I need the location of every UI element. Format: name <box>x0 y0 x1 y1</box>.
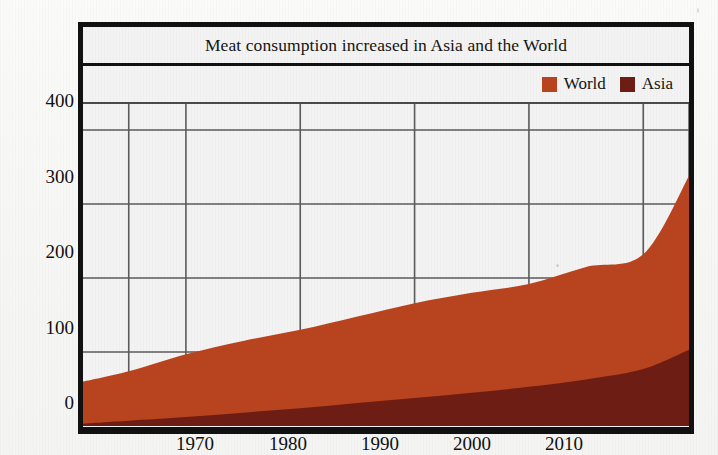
plot-inner <box>83 104 689 429</box>
chart-frame: Meat consumption increased in Asia and t… <box>78 22 694 434</box>
legend-label-world: World <box>564 74 606 94</box>
chart-title: Meat consumption increased in Asia and t… <box>205 35 567 56</box>
legend-swatch-asia <box>620 77 635 92</box>
scan-speck <box>556 264 559 267</box>
legend-label-asia: Asia <box>642 74 673 94</box>
x-tick-1990: 1990 <box>361 433 399 455</box>
y-tick-200: 200 <box>12 241 74 263</box>
y-axis: 400 300 200 100 0 <box>0 0 74 455</box>
area-series-group <box>83 104 689 429</box>
x-axis: 1970 1980 1990 2000 2010 <box>83 430 689 455</box>
x-tick-2000: 2000 <box>453 433 491 455</box>
x-tick-1980: 1980 <box>269 433 307 455</box>
scan-speck <box>697 8 699 13</box>
y-tick-300: 300 <box>12 166 74 188</box>
x-tick-2010: 2010 <box>545 433 583 455</box>
figure-canvas: 400 300 200 100 0 Meat consumption incre… <box>0 0 718 455</box>
y-tick-0: 0 <box>12 392 74 414</box>
legend-item-asia[interactable]: Asia <box>620 74 673 94</box>
title-band: Meat consumption increased in Asia and t… <box>83 27 689 66</box>
legend-swatch-world <box>542 77 557 92</box>
y-tick-100: 100 <box>12 317 74 339</box>
plot-area <box>83 102 689 430</box>
legend: World Asia <box>83 66 689 102</box>
legend-item-world[interactable]: World <box>542 74 606 94</box>
x-tick-1970: 1970 <box>176 433 214 455</box>
y-tick-400: 400 <box>12 90 74 112</box>
